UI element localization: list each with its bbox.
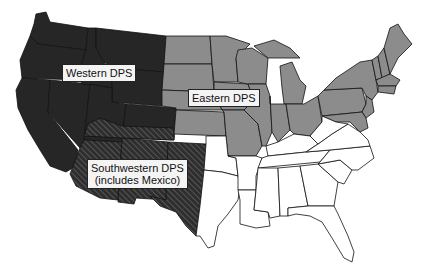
label-southwestern-dps: Southwestern DPS (includes Mexico) [87,159,188,189]
state-north-dakota [164,36,212,64]
label-southwestern-line2: (includes Mexico) [91,174,184,186]
state-texas-east [196,170,240,248]
state-connecticut-ri [378,86,396,94]
state-florida [288,206,354,262]
state-pennsylvania [318,88,366,116]
label-southwestern-line1: Southwestern DPS [91,162,184,174]
region-unassigned [196,116,374,262]
us-dps-map [0,0,429,276]
label-eastern-dps: Eastern DPS [188,89,260,107]
state-south-dakota [162,64,214,92]
state-mississippi [254,168,280,218]
state-maine [384,24,412,74]
state-michigan-lower [280,62,306,104]
label-western-dps: Western DPS [62,64,136,82]
label-eastern-text: Eastern DPS [192,92,256,104]
label-western-text: Western DPS [66,67,132,79]
state-kansas [174,110,226,136]
